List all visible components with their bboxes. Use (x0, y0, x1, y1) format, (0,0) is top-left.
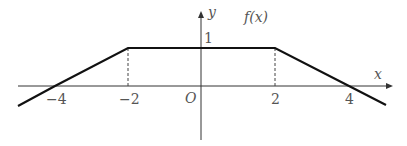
function-curve (18, 48, 386, 106)
x-tick-neg4: −4 (46, 92, 67, 106)
x-tick-2: 2 (271, 92, 280, 106)
y-axis-arrow-icon (198, 11, 204, 18)
x-tick-4: 4 (345, 92, 354, 106)
origin-label: O (185, 91, 196, 105)
x-axis-arrow-icon (386, 83, 393, 89)
x-axis-label: x (374, 67, 382, 81)
function-label: f(x) (244, 10, 268, 24)
y-tick-1: 1 (204, 31, 213, 45)
x-tick-neg2: −2 (119, 92, 140, 106)
y-axis-label: y (208, 5, 216, 19)
function-graph (0, 0, 407, 146)
